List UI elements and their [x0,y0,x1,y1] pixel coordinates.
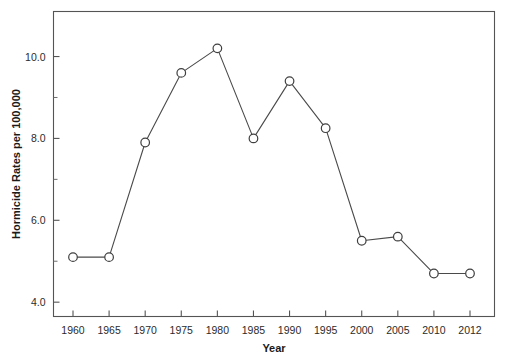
x-tick-label: 1990 [278,324,302,336]
data-point-marker [321,124,330,133]
y-tick-label: 8.0 [31,132,46,144]
data-point-marker [285,77,294,86]
data-point-marker [394,232,403,241]
x-tick-label: 1970 [134,324,158,336]
data-point-marker [69,253,78,262]
x-tick-label: 1980 [206,324,230,336]
y-tick-label: 6.0 [31,214,46,226]
x-tick-label: 1985 [242,324,266,336]
chart-figure: 4.06.08.010.0 19601965197019751980198519… [0,0,507,362]
y-axis-tick-labels: 4.06.08.010.0 [25,51,46,309]
data-series [73,48,470,273]
data-point-marker [177,69,186,78]
plot-frame [54,12,495,317]
data-point-marker [141,138,150,147]
data-point-marker [357,236,366,245]
y-axis-minor-ticks [54,97,58,261]
data-point-marker [466,269,475,278]
y-axis-title: Hormicide Rates per 100,000 [10,89,22,239]
data-markers [69,44,475,278]
x-tick-label: 1965 [97,324,121,336]
data-point-marker [213,44,222,53]
x-tick-label: 2010 [422,324,446,336]
x-tick-label: 1975 [170,324,194,336]
series-polyline [73,48,470,273]
x-tick-label: 2000 [350,324,374,336]
y-tick-label: 10.0 [25,51,46,63]
x-tick-label: 1960 [61,324,85,336]
y-tick-label: 4.0 [31,296,46,308]
x-tick-label: 2012 [458,324,482,336]
x-axis-ticks [73,311,470,317]
x-axis-tick-labels: 1960196519701975198019851990199520002005… [61,324,482,336]
x-tick-label: 1995 [314,324,338,336]
data-point-marker [430,269,439,278]
x-tick-label: 2005 [386,324,410,336]
x-axis-title: Year [262,342,286,354]
data-point-marker [249,134,258,143]
line-chart: 4.06.08.010.0 19601965197019751980198519… [0,0,507,362]
data-point-marker [105,253,114,262]
